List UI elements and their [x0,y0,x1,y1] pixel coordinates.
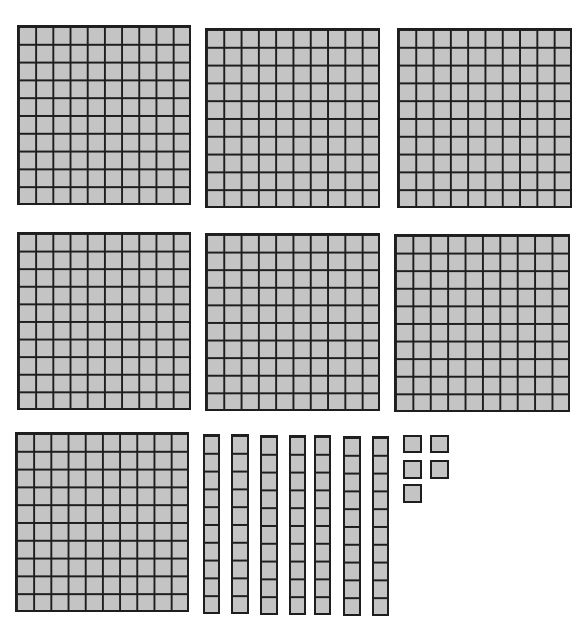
ones-unit-2 [430,435,449,453]
ones-unit-5 [403,484,422,503]
tens-rod-6 [343,436,361,616]
diagram-description: Base-ten blocks representing a number [0,0,1,1]
hundreds-flat-3 [397,28,572,208]
tens-rod-3 [260,435,278,615]
ones-unit-4 [430,460,449,479]
hundreds-flat-4 [17,232,191,410]
hundreds-flat-6 [394,234,570,412]
tens-rod-5 [314,435,331,615]
tens-rod-2 [231,434,249,614]
hundreds-flat-2 [205,28,380,208]
base-ten-blocks-diagram: Base-ten blocks representing a number [0,0,588,634]
hundreds-flat-1 [17,25,191,205]
tens-rod-1 [203,434,220,614]
hundreds-flat-5 [205,233,380,411]
tens-rod-4 [289,435,306,615]
hundreds-flat-7 [15,432,189,612]
ones-unit-1 [403,435,422,453]
ones-unit-3 [403,460,422,479]
tens-rod-7 [372,436,389,616]
